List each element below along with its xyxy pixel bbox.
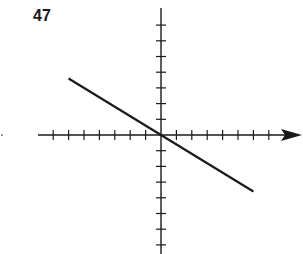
- coordinate-graph: [0, 0, 303, 254]
- x-axis: [38, 129, 302, 141]
- y-axis: [156, 8, 166, 254]
